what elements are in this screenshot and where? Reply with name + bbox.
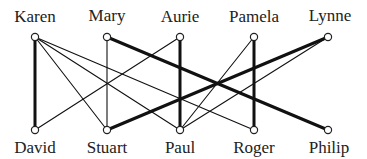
node-lynne [324, 33, 331, 40]
node-philip [324, 126, 331, 133]
node-label-david: David [14, 139, 56, 156]
node-label-lynne: Lynne [309, 7, 352, 24]
node-pamela [250, 33, 257, 40]
node-label-pamela: Pamela [229, 8, 279, 25]
edge-karen-stuart [35, 37, 107, 130]
node-roger [250, 126, 257, 133]
edges-layer [35, 37, 328, 130]
node-paul [176, 126, 183, 133]
node-label-mary: Mary [89, 7, 126, 24]
node-label-aurie: Aurie [161, 8, 200, 25]
node-david [31, 126, 38, 133]
node-label-philip: Philip [309, 139, 350, 156]
node-label-roger: Roger [233, 139, 275, 156]
node-label-stuart: Stuart [87, 139, 128, 156]
node-aurie [176, 33, 183, 40]
node-stuart [103, 126, 110, 133]
node-label-paul: Paul [165, 139, 195, 156]
node-label-karen: Karen [14, 8, 56, 25]
node-karen [31, 33, 38, 40]
node-mary [103, 33, 110, 40]
